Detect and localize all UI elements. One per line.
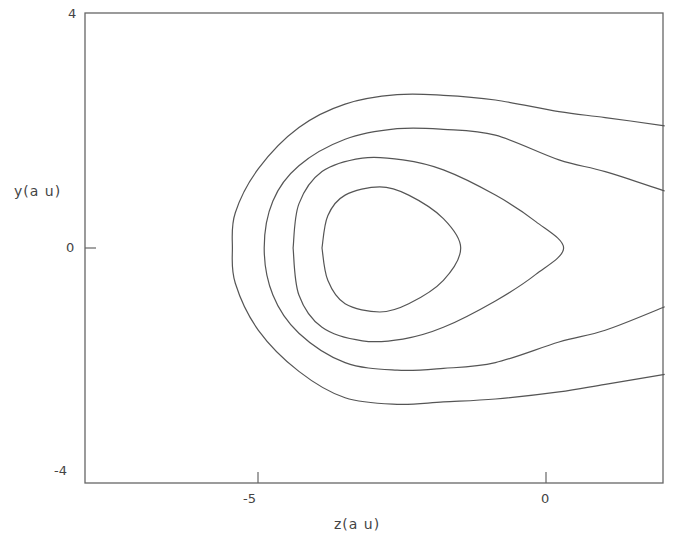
x-tick-label-0: 0 [541,491,549,506]
y-axis-label: y(a u) [14,183,61,199]
x-tick-label-minus5: -5 [243,491,256,506]
y-tick-label-4: 4 [68,6,76,21]
contour-2 [293,157,563,341]
contour-plot [0,0,673,545]
contour-3 [264,128,665,371]
contour-lines [232,94,665,404]
contour-4-outer [232,94,665,404]
x-axis-label: z(a u) [334,516,380,532]
contour-1-inner [322,187,461,312]
plot-frame [85,13,663,483]
y-tick-label-0: 0 [66,240,74,255]
y-tick-label-minus4: -4 [54,463,67,478]
